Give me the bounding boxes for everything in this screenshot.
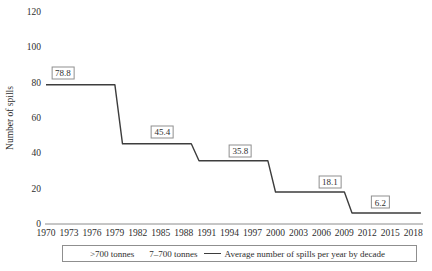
legend-entry-label: >700 tonnes [90,249,134,259]
x-tick-label: 1994 [220,228,239,238]
x-tick-label: 1991 [197,228,216,238]
legend-entry-label: Average number of spills per year by dec… [225,249,386,259]
x-tick-label: 1982 [128,228,147,238]
legend-entry: Average number of spills per year by dec… [204,249,386,259]
chart-canvas: Number of spills 02040608010012019701973… [0,0,432,271]
x-tick-label: 2015 [381,228,400,238]
y-tick-label: 20 [32,184,42,194]
x-tick-label: 1988 [174,228,193,238]
x-tick-label: 2003 [289,228,308,238]
legend-entry: 7–700 tonnes [149,249,197,259]
y-tick-label: 120 [27,7,42,17]
legend-entry: >700 tonnes [90,249,134,259]
y-tick-label: 40 [32,148,42,158]
line-swatch-icon [204,253,221,254]
x-tick-label: 2006 [312,228,331,238]
chart-legend: >700 tonnes7–700 tonnesAverage number of… [62,245,417,262]
y-tick-label: 60 [32,113,42,123]
y-axis-title: Number of spills [5,86,15,150]
series-line [46,85,421,213]
y-tick-label: 80 [32,78,42,88]
x-tick-label: 1973 [59,228,78,238]
x-tick-label: 2012 [358,228,377,238]
x-tick-label: 2009 [335,228,354,238]
x-tick-label: 2000 [266,228,285,238]
x-tick-label: 1997 [243,228,262,238]
y-tick-label: 100 [27,42,42,52]
x-tick-label: 2018 [404,228,423,238]
x-tick-label: 1976 [82,228,101,238]
chart-figure: Number of spills 02040608010012019701973… [0,0,432,271]
x-tick-label: 1970 [37,228,56,238]
x-tick-label: 1979 [105,228,124,238]
legend-entry-label: 7–700 tonnes [149,249,197,259]
x-tick-label: 1985 [151,228,170,238]
